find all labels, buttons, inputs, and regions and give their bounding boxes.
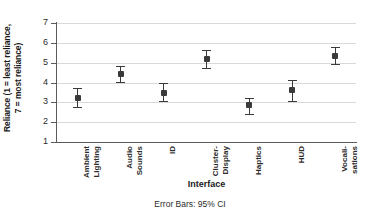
- y-axis-tick-label: 5: [30, 58, 48, 67]
- mean-marker: [332, 53, 338, 59]
- error-bar-cap-upper: [245, 98, 254, 99]
- x-axis-category-label: ID: [168, 86, 182, 146]
- mean-marker: [75, 95, 81, 101]
- y-axis-tick-label: 7: [30, 18, 48, 27]
- y-axis-tick-label: 1: [30, 137, 48, 146]
- error-bar-cap-lower: [288, 101, 297, 102]
- error-bar-chart: Reliance (1 = least reliance, 7 = most r…: [0, 0, 380, 215]
- gridline: [57, 122, 356, 123]
- mean-marker: [161, 90, 167, 96]
- error-bar-cap-lower: [159, 101, 168, 102]
- y-axis-tick-label: 6: [30, 38, 48, 47]
- y-axis-title-line-2: 7 = most reliance): [13, 12, 24, 144]
- gridline: [57, 43, 356, 44]
- error-bar-cap-lower: [116, 82, 125, 83]
- gridline: [57, 83, 356, 84]
- error-bar-cap-upper: [331, 47, 340, 48]
- gridline: [57, 102, 356, 103]
- error-bar-cap-lower: [331, 64, 340, 65]
- y-axis-line: [56, 22, 57, 143]
- y-axis-tick-label: 4: [30, 78, 48, 87]
- mean-marker: [289, 87, 295, 93]
- error-bar-cap-upper: [116, 66, 125, 67]
- mean-marker: [246, 102, 252, 108]
- error-bar-cap-upper: [202, 50, 211, 51]
- x-axis-category-label: Ambient Lighting: [82, 86, 96, 146]
- x-axis-category-label: Vocali- sations: [340, 86, 354, 146]
- error-bar-cap-lower: [202, 68, 211, 69]
- error-bar-cap-upper: [288, 80, 297, 81]
- x-axis-line: [56, 142, 357, 143]
- y-axis-title: Reliance (1 = least reliance, 7 = most r…: [2, 0, 24, 12]
- x-axis-category-label: HUD: [297, 86, 311, 146]
- error-bar-note: Error Bars: 95% CI: [0, 199, 380, 209]
- gridline: [57, 23, 356, 24]
- mean-marker: [118, 71, 124, 77]
- mean-marker: [204, 56, 210, 62]
- x-axis-category-label: Audio Sounds: [125, 86, 139, 146]
- y-axis-tick-label: 3: [30, 97, 48, 106]
- x-axis-category-label: Haptics: [254, 86, 268, 146]
- error-bar-cap-lower: [245, 114, 254, 115]
- error-bar-cap-upper: [159, 83, 168, 84]
- y-axis-title-line-1: Reliance (1 = least reliance,: [2, 12, 13, 144]
- x-axis-category-label: Cluster- Display: [211, 86, 225, 146]
- x-axis-title: Interface: [56, 179, 357, 189]
- y-axis-tick-label: 2: [30, 117, 48, 126]
